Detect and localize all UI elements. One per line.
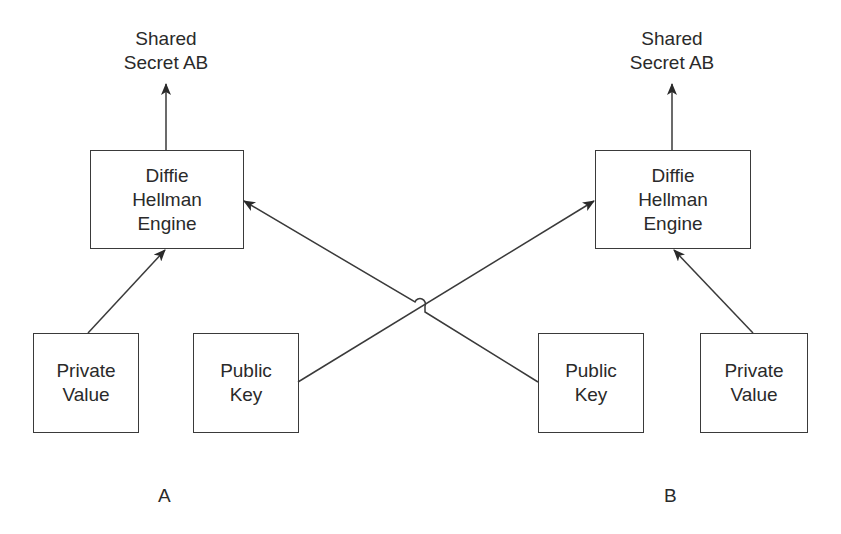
a-public-line2: Key — [230, 383, 263, 407]
connector-layer — [0, 0, 841, 534]
a-public-key-box: Public Key — [193, 333, 299, 433]
b-private-line2: Value — [730, 383, 777, 407]
b-public-key-box: Public Key — [538, 333, 644, 433]
a-private-value-box: Private Value — [33, 333, 139, 433]
a-engine-line2: Hellman — [132, 188, 202, 212]
b-secret-line2: Secret AB — [616, 51, 728, 75]
b-secret-line1: Shared — [616, 27, 728, 51]
b-private-value-box: Private Value — [700, 333, 808, 433]
a-engine-line1: Diffie — [146, 164, 189, 188]
a-engine-line3: Engine — [137, 212, 196, 236]
arrow-b-private-to-engine — [674, 250, 753, 333]
b-engine-line3: Engine — [643, 212, 702, 236]
a-public-line1: Public — [220, 359, 272, 383]
party-b-label: B — [664, 485, 677, 507]
b-engine-line2: Hellman — [638, 188, 708, 212]
party-a-label: A — [158, 485, 171, 507]
a-diffie-hellman-engine-box: Diffie Hellman Engine — [90, 150, 244, 249]
a-secret-line2: Secret AB — [110, 51, 222, 75]
a-private-line1: Private — [56, 359, 115, 383]
b-public-line2: Key — [575, 383, 608, 407]
b-shared-secret-label: Shared Secret AB — [616, 27, 728, 75]
b-engine-line1: Diffie — [652, 164, 695, 188]
b-private-line1: Private — [724, 359, 783, 383]
b-public-line1: Public — [565, 359, 617, 383]
a-private-line2: Value — [62, 383, 109, 407]
arrow-a-private-to-engine — [88, 250, 165, 333]
b-diffie-hellman-engine-box: Diffie Hellman Engine — [595, 150, 751, 249]
a-shared-secret-label: Shared Secret AB — [110, 27, 222, 75]
a-secret-line1: Shared — [110, 27, 222, 51]
